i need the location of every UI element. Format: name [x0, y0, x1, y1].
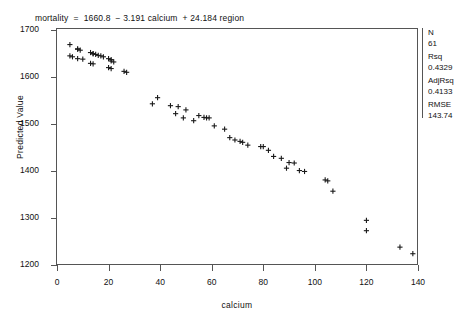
stat-adjrsq-value: 0.4133	[428, 87, 465, 98]
statistics-panel: N 61 Rsq 0.4329 AdjRsq 0.4133 RMSE 143.7…	[428, 28, 465, 124]
x-tick-label: 140	[403, 277, 433, 287]
x-tick-label: 120	[351, 277, 381, 287]
x-tick-mark	[212, 265, 213, 271]
stat-rmse-label: RMSE	[428, 100, 465, 111]
x-tick-label: 0	[42, 277, 72, 287]
stat-rmse: RMSE 143.74	[428, 100, 465, 121]
x-tick-mark	[315, 265, 316, 271]
x-tick-mark	[418, 265, 419, 271]
x-axis-label: calcium	[182, 300, 292, 310]
y-tick-mark	[51, 77, 57, 78]
y-tick-mark	[51, 171, 57, 172]
x-tick-label: 60	[197, 277, 227, 287]
y-tick-label: 1500	[9, 118, 39, 128]
y-tick-label: 1300	[9, 212, 39, 222]
x-tick-label: 80	[248, 277, 278, 287]
stat-rmse-value: 143.74	[428, 111, 465, 122]
stat-adjrsq: AdjRsq 0.4133	[428, 76, 465, 97]
y-tick-label: 1400	[9, 165, 39, 175]
y-tick-mark	[51, 30, 57, 31]
plot-area	[56, 28, 418, 265]
x-tick-mark	[109, 265, 110, 271]
stat-n-value: 61	[428, 39, 465, 50]
x-tick-label: 40	[145, 277, 175, 287]
x-tick-mark	[263, 265, 264, 271]
stat-n-label: N	[428, 28, 465, 39]
y-tick-label: 1600	[9, 71, 39, 81]
x-tick-label: 20	[94, 277, 124, 287]
y-tick-mark	[51, 218, 57, 219]
y-tick-mark	[51, 124, 57, 125]
stat-rsq-label: Rsq	[428, 52, 465, 63]
x-tick-label: 100	[300, 277, 330, 287]
stats-divider	[422, 28, 423, 118]
y-tick-label: 1700	[9, 24, 39, 34]
stat-n: N 61	[428, 28, 465, 49]
y-tick-label: 1200	[9, 259, 39, 269]
regression-equation: mortality = 1660.8 − 3.191 calcium + 24.…	[35, 13, 244, 23]
stat-rsq-value: 0.4329	[428, 63, 465, 74]
x-tick-mark	[57, 265, 58, 271]
x-tick-mark	[366, 265, 367, 271]
x-tick-mark	[160, 265, 161, 271]
stat-adjrsq-label: AdjRsq	[428, 76, 465, 87]
stat-rsq: Rsq 0.4329	[428, 52, 465, 73]
